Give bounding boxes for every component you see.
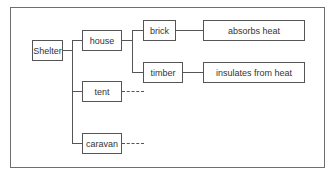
node-shelter: Shelter	[32, 40, 63, 61]
connector	[132, 72, 143, 73]
node-caravan: caravan	[82, 133, 122, 154]
node-tent: tent	[82, 81, 122, 102]
connector	[72, 143, 82, 144]
connector	[132, 30, 133, 72]
connector	[72, 40, 73, 144]
connector	[62, 50, 72, 51]
dashed-connector	[122, 143, 144, 144]
connector	[72, 91, 82, 92]
node-brick: brick	[143, 20, 176, 41]
node-insulates-from-heat: insulates from heat	[203, 62, 305, 83]
node-house: house	[82, 30, 122, 51]
connector	[132, 30, 143, 31]
connector	[72, 40, 82, 41]
node-timber: timber	[143, 62, 183, 83]
connector	[176, 30, 203, 31]
connector	[122, 40, 132, 41]
dashed-connector	[122, 91, 144, 92]
node-absorbs-heat: absorbs heat	[203, 20, 305, 41]
connector	[183, 72, 203, 73]
